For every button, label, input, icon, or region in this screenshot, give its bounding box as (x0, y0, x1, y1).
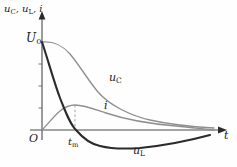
origin-label: O (29, 133, 38, 144)
y-axis-label: uC, uL, i (4, 4, 43, 15)
curve-uc-label: uC (109, 72, 122, 84)
curve-i-label: i (104, 100, 108, 111)
rlc-transient-response-figure: uC, uL, i U0 O tm uC i uL t (0, 0, 237, 167)
x-axis-label: t (224, 130, 228, 141)
tm-label: tm (68, 137, 78, 148)
curve-ul (42, 42, 210, 149)
curve-ul-label: uL (133, 145, 145, 157)
u0-value-label: U0 (26, 32, 41, 45)
